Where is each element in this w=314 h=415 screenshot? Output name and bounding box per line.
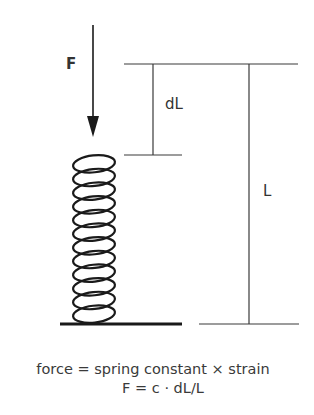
force-label: F — [66, 57, 76, 72]
delta-length-label: dL — [165, 97, 183, 112]
formula-text-description: force = spring constant × strain — [0, 362, 310, 377]
spring-coil-icon — [72, 153, 116, 325]
force-arrow-icon — [87, 25, 99, 137]
spring-strain-diagram: F dL L force = spring constant × strain … — [0, 0, 314, 415]
diagram-canvas — [0, 0, 314, 415]
length-label: L — [263, 184, 271, 199]
l-dimension-line — [199, 64, 299, 324]
formula-equation: F = c · dL/L — [6, 381, 314, 396]
